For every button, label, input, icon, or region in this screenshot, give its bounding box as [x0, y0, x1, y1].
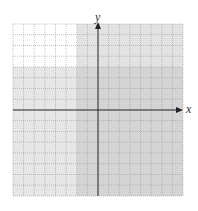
- inequality-graph: [0, 0, 198, 211]
- x-axis-label: x: [186, 102, 191, 117]
- y-axis-label: y: [95, 10, 100, 25]
